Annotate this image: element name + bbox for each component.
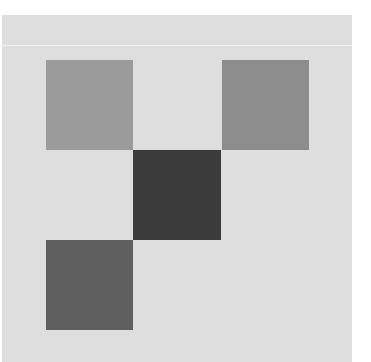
tile-center [133,150,221,240]
tile-top-right [222,60,309,150]
divider-line [2,45,352,46]
tile-bottom-left [46,240,133,330]
tile-top-left [46,60,133,150]
